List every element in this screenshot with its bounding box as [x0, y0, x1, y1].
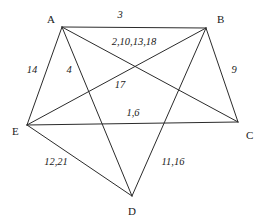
graph-edge-e-c: [27, 122, 238, 125]
vertex-label-c: C: [246, 130, 253, 141]
edge-weight-label-e-c: 1,6: [126, 108, 139, 119]
graph-edge-e-d: [27, 125, 132, 196]
graph-diagram: ABCDE 32,10,13,1814491711,161,612,21: [0, 0, 262, 219]
vertex-label-d: D: [128, 206, 136, 217]
edge-weight-label-b-c: 9: [231, 65, 236, 76]
vertex-label-b: B: [217, 14, 224, 25]
edge-weight-label-e-d: 12,21: [44, 157, 68, 168]
edge-weight-label-b-e: 17: [115, 80, 126, 91]
graph-edge-a-e: [27, 27, 62, 125]
graph-edge-a-b: [62, 27, 206, 28]
edge-weight-label-a-e: 14: [27, 65, 38, 76]
graph-edge-b-d: [132, 28, 206, 196]
edge-weight-label-b-d: 11,16: [162, 157, 185, 168]
edge-weight-label-a-d: 4: [66, 65, 71, 76]
vertex-label-a: A: [47, 14, 55, 25]
vertex-label-e: E: [12, 126, 19, 137]
graph-edge-a-d: [62, 27, 132, 196]
edge-weight-label-a-c: 2,10,13,18: [112, 37, 157, 48]
edge-weight-label-a-b: 3: [117, 10, 122, 21]
